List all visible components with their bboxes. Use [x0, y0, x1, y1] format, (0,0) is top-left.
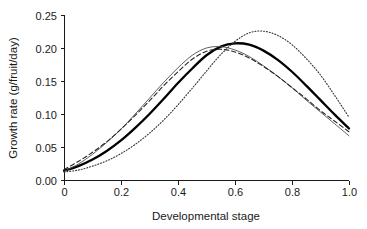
- chart-figure: 0.000.050.100.150.200.25 00.20.40.60.81.…: [0, 0, 367, 229]
- y-tick-label: 0.25: [36, 10, 57, 22]
- x-tick-label: 0.8: [285, 186, 300, 198]
- y-tick-label: 0.10: [36, 109, 57, 121]
- y-axis-tick-labels: 0.000.050.100.150.200.25: [36, 10, 57, 187]
- x-tick-label: 0.2: [114, 186, 129, 198]
- x-tick-label: 1.0: [342, 186, 357, 198]
- x-axis-title: Developmental stage: [152, 210, 260, 222]
- x-tick-label: 0: [61, 186, 67, 198]
- growth-rate-line-chart: 0.000.050.100.150.200.25 00.20.40.60.81.…: [0, 0, 367, 229]
- y-tick-label: 0.05: [36, 142, 57, 154]
- curve-thin-solid: [64, 47, 349, 172]
- y-tick-label: 0.00: [36, 175, 57, 187]
- curve-thick-solid: [64, 43, 349, 170]
- x-axis-ticks: [65, 181, 350, 185]
- y-tick-label: 0.20: [36, 43, 57, 55]
- x-axis-tick-labels: 00.20.40.60.81.0: [61, 186, 357, 198]
- y-tick-label: 0.15: [36, 76, 57, 88]
- x-tick-label: 0.6: [228, 186, 243, 198]
- y-axis-title: Growth rate (g/fruit/day): [7, 37, 19, 159]
- data-curves: [64, 31, 349, 172]
- x-tick-label: 0.4: [171, 186, 186, 198]
- y-axis-ticks: [61, 16, 65, 181]
